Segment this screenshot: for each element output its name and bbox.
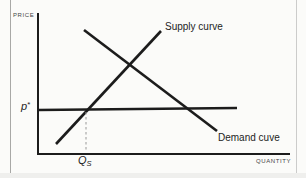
supply-curve-label: Supply curve [165, 22, 223, 32]
price-axis-label: PRICE [13, 12, 34, 18]
quantity-axis-label: QUANTITY [256, 158, 291, 164]
quantity-supplied-label: QS [78, 155, 92, 166]
supply-demand-figure: PRICE QUANTITY Supply curve Demand cuve … [0, 0, 306, 178]
demand-curve-label: Demand cuve [218, 133, 280, 143]
equilibrium-price-label: p* [21, 101, 30, 112]
price-star-superscript: * [27, 100, 30, 109]
diagram-canvas [0, 0, 306, 178]
demand-curve-line [84, 30, 217, 131]
quantity-subscript: S [87, 159, 92, 168]
quantity-symbol: Q [78, 154, 87, 166]
equilibrium-price-line [38, 108, 237, 110]
